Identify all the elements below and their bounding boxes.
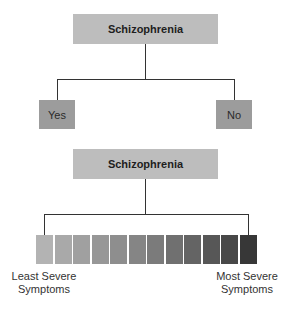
severity-segment-8	[166, 235, 183, 264]
severity-segment-7	[147, 235, 164, 264]
no-label: No	[227, 109, 241, 121]
severity-segment-1	[36, 235, 53, 264]
least-severe-label: Least Severe Symptoms	[10, 270, 78, 296]
most-severe-line1: Most Severe	[213, 270, 281, 283]
severity-segment-2	[55, 235, 72, 264]
bottom-left-stem	[44, 214, 45, 235]
top-horizontal-connector	[57, 79, 235, 80]
least-severe-line1: Least Severe	[10, 270, 78, 283]
bottom-root-node: Schizophrenia	[73, 149, 218, 179]
severity-segment-10	[203, 235, 220, 264]
top-no-stem	[234, 79, 235, 100]
severity-scale-bar	[36, 235, 257, 264]
top-root-stem	[145, 44, 146, 79]
severity-segment-5	[110, 235, 127, 264]
yes-label: Yes	[48, 109, 66, 121]
most-severe-label: Most Severe Symptoms	[213, 270, 281, 296]
no-node: No	[216, 100, 252, 129]
bottom-root-stem	[145, 179, 146, 214]
severity-segment-9	[184, 235, 201, 264]
severity-segment-12	[240, 235, 257, 264]
yes-node: Yes	[39, 100, 75, 129]
most-severe-line2: Symptoms	[213, 283, 281, 296]
bottom-root-label: Schizophrenia	[108, 158, 183, 170]
severity-segment-4	[92, 235, 109, 264]
top-yes-stem	[57, 79, 58, 100]
top-root-label: Schizophrenia	[108, 23, 183, 35]
bottom-right-stem	[248, 214, 249, 235]
severity-segment-11	[221, 235, 238, 264]
severity-segment-6	[129, 235, 146, 264]
top-root-node: Schizophrenia	[73, 14, 218, 44]
least-severe-line2: Symptoms	[10, 283, 78, 296]
bottom-horizontal-connector	[44, 214, 249, 215]
severity-segment-3	[73, 235, 90, 264]
